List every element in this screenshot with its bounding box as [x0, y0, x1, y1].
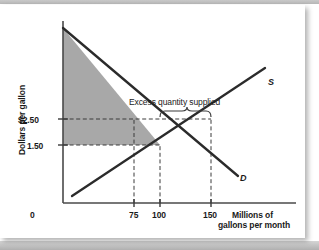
page-top-edge-band — [0, 0, 319, 4]
y-tick-label-150: 1.50 — [27, 141, 43, 151]
x-axis-title-line2: gallons per month — [218, 220, 290, 230]
demand-curve-label: D — [240, 173, 246, 183]
figure-card: Dollars per gallon $2.50 1.50 0 75 100 1… — [0, 5, 305, 238]
x-tick-label-origin: 0 — [30, 210, 35, 220]
x-axis-title-line1: Millions of — [232, 210, 273, 220]
shaded-surplus-region — [63, 28, 160, 145]
y-tick-label-250: $2.50 — [18, 115, 39, 125]
figure-page: Dollars per gallon $2.50 1.50 0 75 100 1… — [0, 0, 319, 250]
x-tick-label-75: 75 — [129, 210, 138, 220]
page-bottom-edge-band — [0, 241, 319, 250]
x-tick-label-150: 150 — [203, 210, 217, 220]
x-tick-label-100: 100 — [152, 210, 166, 220]
supply-curve-label: S — [268, 77, 274, 87]
supply-demand-chart — [0, 5, 305, 238]
excess-quantity-supplied-label: Excess quantity supplied — [129, 97, 220, 107]
